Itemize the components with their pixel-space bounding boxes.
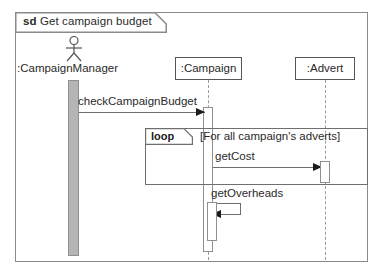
frame-kind-label: sd: [23, 15, 37, 27]
actor-icon: [60, 36, 88, 62]
lifeline-label-campaignmanager: :CampaignManager: [17, 62, 118, 74]
message-line-checkcampaignbudget: [79, 112, 205, 113]
loop-guard-condition: [For all campaign's adverts]: [200, 130, 340, 142]
frame-name-tab: sd Get campaign budget: [15, 12, 167, 33]
message-line-getcost: [213, 167, 323, 168]
arrowhead-filled-icon: [196, 108, 205, 116]
activation-bar-campaign-nested: [207, 202, 217, 241]
activation-bar-advert: [320, 161, 330, 183]
frame-name-label: Get campaign budget: [40, 15, 152, 27]
message-label-getoverheads: getOverheads: [211, 187, 283, 199]
self-message-segment-bottom: [218, 214, 241, 215]
sequence-diagram: sd Get campaign budget :CampaignManager …: [0, 0, 381, 272]
lifeline-box-campaign: :Campaign: [175, 57, 242, 80]
message-label-checkcampaignbudget: checkCampaignBudget: [78, 95, 197, 107]
lifeline-box-advert: :Advert: [295, 57, 355, 80]
loop-operator-label: loop: [151, 130, 174, 142]
message-label-getcost: getCost: [215, 150, 255, 162]
frame-title: sd Get campaign budget: [23, 15, 152, 27]
